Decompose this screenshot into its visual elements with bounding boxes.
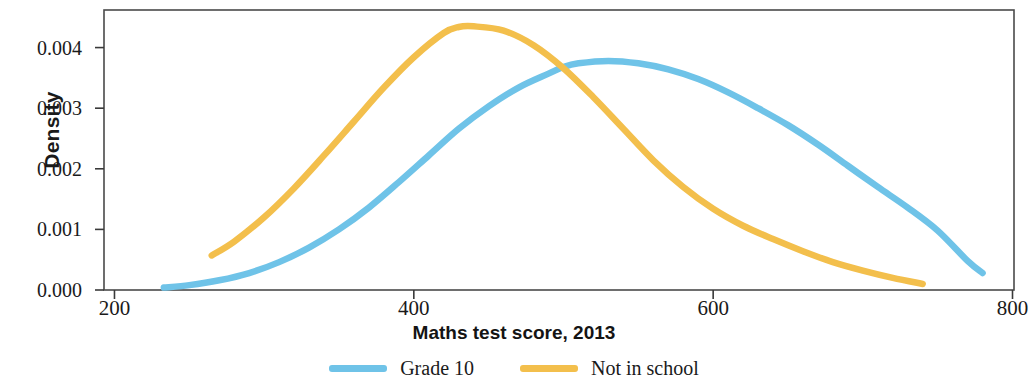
legend-label: Not in school: [591, 357, 699, 380]
density-curve-grade-10: [164, 61, 983, 288]
x-axis-title: Maths test score, 2013: [0, 322, 1028, 344]
legend-label: Grade 10: [400, 357, 474, 380]
legend-color-swatch: [520, 365, 578, 372]
legend-item[interactable]: Grade 10: [329, 357, 474, 380]
legend-color-swatch: [329, 365, 387, 372]
plot-frame: [104, 10, 1014, 290]
chart-legend: Grade 10Not in school: [0, 357, 1028, 380]
legend-item[interactable]: Not in school: [520, 357, 699, 380]
